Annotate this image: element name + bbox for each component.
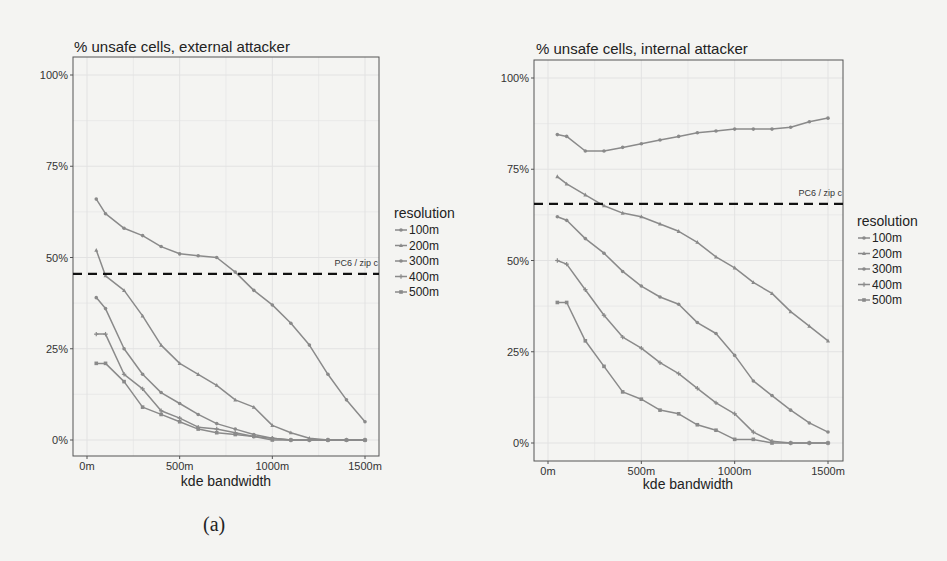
series-200m [94,248,367,442]
y-tick-label: 100% [40,69,68,81]
legend-item-500m: 500m [858,293,902,307]
x-tick-label: 0m [540,465,555,477]
legend-item-200m: 200m [395,239,439,253]
x-axis-label: kde bandwidth [643,476,733,492]
reference-line-label: PC6 / zip c [798,188,842,198]
chart-panel-internal: % unsafe cells, internal attacker 0%25%5… [470,0,947,561]
y-tick-label: 100% [501,72,529,84]
svg-text:400m: 400m [409,270,439,284]
series-500m [94,362,366,442]
svg-text:300m: 300m [409,254,439,268]
figure-caption: (a) [203,513,225,536]
y-tick-label: 25% [507,346,529,358]
chart-external-attacker: % unsafe cells, external attacker 0%25%5… [0,0,470,561]
series-100m [94,197,366,423]
chart-title: % unsafe cells, internal attacker [536,40,748,57]
y-tick-label: 0% [52,434,68,446]
svg-text:200m: 200m [872,247,902,261]
legend-item-200m: 200m [858,247,902,261]
series-300m [94,296,366,442]
svg-text:200m: 200m [409,239,439,253]
legend-item-100m: 100m [395,223,439,237]
svg-text:400m: 400m [872,278,902,292]
plot-area: 0%25%50%75%100%0m500m1000m1500mPC6 / zip… [40,57,382,472]
legend-item-400m: 400m [395,270,439,284]
series-100m [556,116,830,152]
legend-item-100m: 100m [858,231,902,245]
chart-title: % unsafe cells, external attacker [74,38,290,55]
y-tick-label: 75% [46,160,68,172]
legend: 100m200m300m400m500m [858,231,902,307]
svg-text:300m: 300m [872,262,902,276]
x-tick-label: 500m [166,460,194,472]
x-tick-label: 0m [79,460,94,472]
y-tick-label: 50% [507,255,529,267]
x-tick-label: 1500m [348,460,382,472]
y-tick-label: 25% [46,343,68,355]
x-tick-label: 1000m [256,460,290,472]
reference-line-label: PC6 / zip c [334,258,378,268]
legend: 100m200m300m400m500m [395,223,439,299]
svg-text:100m: 100m [409,223,439,237]
legend-item-300m: 300m [395,254,439,268]
y-tick-label: 50% [46,252,68,264]
chart-internal-attacker: % unsafe cells, internal attacker 0%25%5… [470,0,947,561]
series-300m [556,215,830,434]
series-500m [556,301,830,445]
legend-title: resolution [394,205,455,221]
svg-text:500m: 500m [872,293,902,307]
legend-item-400m: 400m [858,278,902,292]
chart-panel-external: % unsafe cells, external attacker 0%25%5… [0,0,470,561]
svg-text:500m: 500m [409,285,439,299]
y-tick-label: 75% [507,163,529,175]
x-tick-label: 1500m [811,465,845,477]
svg-text:100m: 100m [872,231,902,245]
x-axis-label: kde bandwidth [181,473,271,489]
legend-item-300m: 300m [858,262,902,276]
y-tick-label: 0% [513,437,529,449]
legend-title: resolution [857,213,918,229]
plot-area: 0%25%50%75%100%0m500m1000m1500mPC6 / zip… [501,60,845,477]
legend-item-500m: 500m [395,285,439,299]
